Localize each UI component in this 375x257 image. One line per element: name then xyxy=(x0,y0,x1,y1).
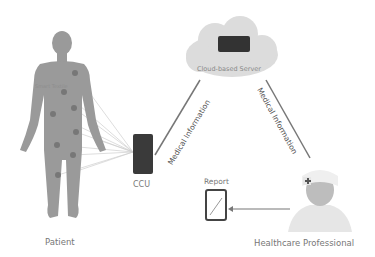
smart-textile-label: Smart Textile xyxy=(35,83,68,89)
patient-figure xyxy=(20,31,106,218)
professional-label: Healthcare Professional xyxy=(254,238,354,248)
report-label: Report xyxy=(204,177,229,186)
healthcare-professional-figure xyxy=(288,170,352,232)
report-icon xyxy=(206,190,226,220)
server-icon xyxy=(218,36,250,52)
cloud-label: Cloud-based Server xyxy=(197,65,261,73)
ccu-device-icon xyxy=(133,134,153,174)
ccu-label: CCU xyxy=(133,180,150,189)
patient-label: Patient xyxy=(45,237,75,247)
